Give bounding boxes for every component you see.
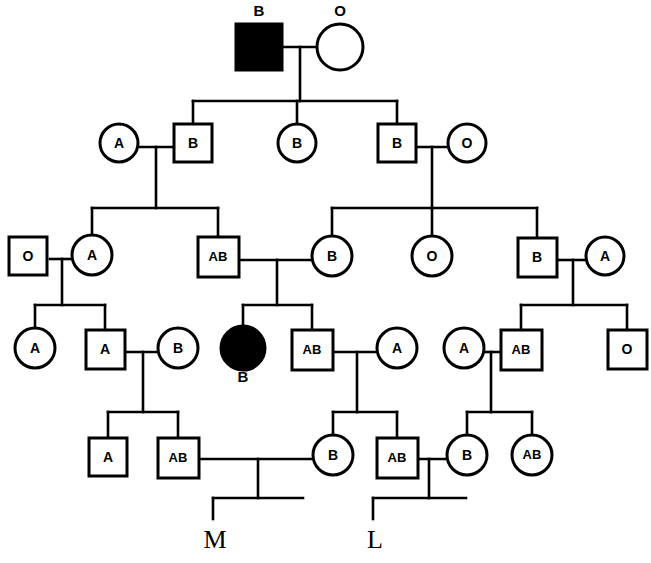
blood-type-label: AB [169, 450, 188, 465]
circle-symbol-affected[interactable] [221, 326, 265, 370]
blood-type-label: O [622, 341, 633, 357]
blood-type-label: A [459, 340, 469, 356]
individual-V-4[interactable]: AB [377, 438, 418, 478]
blood-type-label: B [392, 135, 402, 151]
offspring-marker-l: L [367, 525, 383, 554]
individual-IV-4-proband[interactable]: B [221, 326, 265, 385]
individual-II-1[interactable]: A [100, 124, 138, 162]
individual-II-2[interactable]: B [174, 124, 212, 162]
pedigree-chart: B O A B B B [0, 0, 651, 563]
blood-type-label: AB [523, 447, 542, 462]
generation-3: O A AB B O B A [9, 235, 624, 277]
blood-type-label: A [392, 340, 402, 356]
individual-IV-2[interactable]: A [86, 330, 125, 369]
individual-V-3[interactable]: B [313, 435, 353, 475]
square-symbol-affected[interactable] [236, 24, 282, 70]
individual-I-1[interactable]: B [236, 2, 282, 70]
generation-2: A B B B O [100, 124, 486, 162]
individual-III-6[interactable]: B [518, 238, 557, 277]
generation-5: A AB B AB B AB [89, 435, 552, 478]
blood-type-label: B [173, 340, 183, 356]
blood-type-label: O [334, 2, 346, 19]
individual-III-5[interactable]: O [412, 236, 452, 276]
individual-IV-8[interactable]: AB [501, 330, 542, 370]
individual-IV-6[interactable]: A [377, 328, 417, 368]
individual-II-5[interactable]: O [448, 124, 486, 162]
individual-IV-5[interactable]: AB [292, 330, 333, 370]
blood-type-label: AB [512, 342, 531, 357]
blood-type-label: A [87, 247, 97, 263]
blood-type-label: B [532, 249, 542, 265]
individual-II-3[interactable]: B [278, 124, 316, 162]
circle-symbol[interactable] [317, 24, 363, 70]
individual-III-4[interactable]: B [312, 236, 352, 276]
blood-type-label: B [238, 368, 249, 385]
individual-V-1[interactable]: A [89, 438, 127, 476]
blood-type-label: O [462, 135, 473, 151]
individual-II-4[interactable]: B [378, 124, 416, 162]
individual-IV-7[interactable]: A [444, 328, 484, 368]
blood-type-label: O [427, 248, 438, 264]
blood-type-label: B [292, 135, 302, 151]
blood-type-label: B [327, 248, 337, 264]
individual-IV-9[interactable]: O [608, 330, 647, 369]
individual-III-1[interactable]: O [9, 237, 47, 275]
individual-IV-1[interactable]: A [15, 328, 55, 368]
individual-III-2[interactable]: A [72, 235, 112, 275]
blood-type-label: O [23, 248, 34, 264]
blood-type-label: A [100, 341, 110, 357]
blood-type-label: AB [388, 450, 407, 465]
blood-type-label: B [462, 447, 472, 463]
individual-IV-3[interactable]: B [158, 328, 198, 368]
blood-type-label: A [103, 449, 113, 465]
individual-III-3[interactable]: AB [198, 237, 239, 277]
individual-I-2[interactable]: O [317, 2, 363, 70]
blood-type-label: B [254, 2, 265, 19]
blood-type-label: A [600, 248, 610, 264]
individual-III-7[interactable]: A [586, 237, 624, 275]
blood-type-label: AB [209, 249, 228, 264]
offspring-marker-m: M [203, 525, 226, 554]
individual-V-6[interactable]: AB [512, 435, 552, 475]
blood-type-label: B [188, 135, 198, 151]
blood-type-label: AB [303, 342, 322, 357]
individual-V-5[interactable]: B [447, 435, 487, 475]
blood-type-label: A [30, 340, 40, 356]
blood-type-label: A [114, 135, 124, 151]
offspring-markers: M L [203, 525, 383, 554]
generation-4: A A B B AB A A [15, 326, 647, 385]
blood-type-label: B [328, 447, 338, 463]
pedigree-diagram-canvas: B O A B B B [0, 0, 651, 563]
individual-V-2[interactable]: AB [158, 438, 199, 478]
